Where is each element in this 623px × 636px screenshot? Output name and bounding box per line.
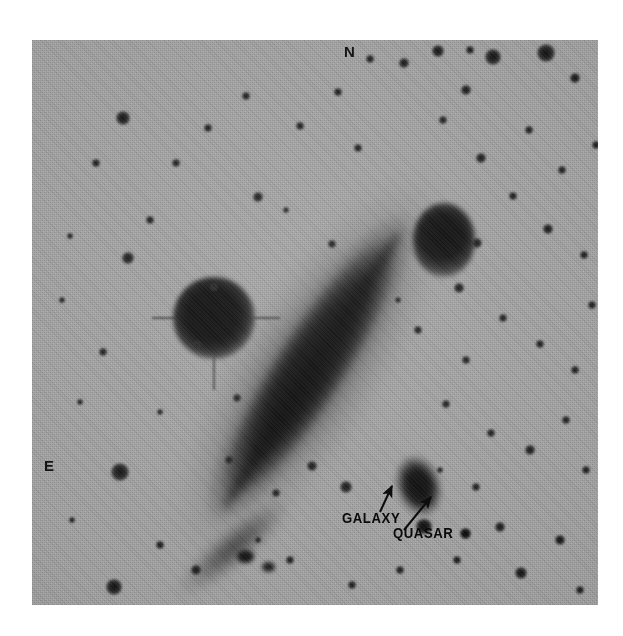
field-star [442, 400, 450, 408]
field-star [328, 240, 336, 248]
field-star [555, 535, 565, 545]
galaxy-dust-lane [216, 226, 408, 514]
galaxy-northeast-knot [413, 203, 475, 277]
field-star [272, 489, 280, 497]
field-star [454, 283, 464, 293]
field-star [77, 399, 83, 405]
field-star [499, 314, 507, 322]
plate-vignette [32, 40, 598, 605]
field-star [472, 238, 482, 248]
field-star [193, 341, 201, 349]
field-star [592, 141, 598, 149]
field-star [509, 192, 517, 200]
main-galaxy-body [173, 188, 446, 547]
field-star [99, 348, 107, 356]
field-star [580, 251, 588, 259]
photographic-plate [32, 40, 598, 605]
field-star [334, 88, 342, 96]
galaxy-plume-knot-b [262, 562, 275, 572]
compass-east-label: E [44, 458, 54, 473]
field-star [106, 579, 122, 595]
field-star [399, 58, 409, 68]
field-star [472, 483, 480, 491]
field-star [515, 567, 527, 579]
field-star [453, 556, 461, 564]
field-star [437, 467, 443, 473]
field-star [210, 283, 218, 291]
field-star [283, 207, 289, 213]
plate-grain-texture-diagonal [32, 40, 598, 605]
field-star [354, 144, 362, 152]
astronomical-figure: GALAXY QUASAR N E [0, 0, 623, 636]
field-star [116, 111, 130, 125]
field-star [487, 429, 495, 437]
field-star [432, 45, 444, 57]
field-star [225, 456, 233, 464]
field-star [476, 153, 486, 163]
plate-grain-texture [32, 40, 598, 605]
galaxy-tidal-plume [158, 488, 299, 605]
field-star [466, 46, 474, 54]
galaxy-label: GALAXY [342, 511, 400, 525]
field-star [525, 445, 535, 455]
diffraction-spike-horizontal [152, 317, 280, 319]
field-star [536, 340, 544, 348]
field-star [59, 297, 65, 303]
field-star [537, 44, 555, 62]
diffraction-spike-vertical [213, 312, 215, 390]
field-star [462, 356, 470, 364]
field-star [576, 586, 584, 594]
field-star [588, 301, 596, 309]
field-star [366, 55, 374, 63]
field-star [495, 522, 505, 532]
field-star [525, 126, 533, 134]
field-star [146, 216, 154, 224]
field-star [570, 73, 580, 83]
field-star [461, 85, 471, 95]
field-star [582, 466, 590, 474]
field-star [543, 224, 553, 234]
field-star [122, 252, 134, 264]
field-star [340, 481, 352, 493]
field-star [69, 517, 75, 523]
field-star [562, 416, 570, 424]
field-star [414, 326, 422, 334]
field-star [111, 463, 129, 481]
field-star [558, 166, 566, 174]
field-star [439, 116, 447, 124]
field-star [204, 124, 212, 132]
field-star [286, 556, 294, 564]
field-star [242, 92, 250, 100]
quasar-point-source [460, 528, 471, 539]
field-star [395, 297, 401, 303]
field-star [67, 233, 73, 239]
bright-foreground-star [173, 277, 255, 359]
compass-north-label: N [344, 44, 355, 59]
field-star [255, 537, 261, 543]
quasar-label: QUASAR [393, 526, 453, 540]
field-star [92, 159, 100, 167]
field-star [172, 159, 180, 167]
field-star [396, 566, 404, 574]
field-star [348, 581, 356, 589]
field-star [296, 122, 304, 130]
field-star [157, 409, 163, 415]
galaxy-plume-knot-a [237, 550, 254, 563]
field-star [307, 461, 317, 471]
field-star [485, 49, 501, 65]
field-star [253, 192, 263, 202]
field-star [156, 541, 164, 549]
field-star [571, 366, 579, 374]
field-star [233, 394, 241, 402]
field-star [191, 565, 201, 575]
